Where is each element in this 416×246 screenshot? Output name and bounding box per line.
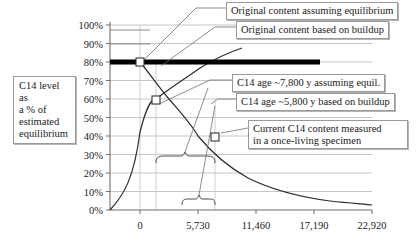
- chart-figure: 100% 90% 80% 70% 60% 50% 40% 30% 20% 10%…: [0, 0, 416, 246]
- y-tick-label-90: 90%: [84, 39, 104, 50]
- y-tick-label-0: 0%: [89, 205, 103, 216]
- axes: [110, 22, 372, 210]
- y-tick-label-80: 80%: [84, 57, 104, 68]
- y-tick-label-100: 100%: [79, 20, 104, 31]
- callout-c14-age-assuming-equilibrium-text: C14 age ~7,800 y assuming equil.: [237, 77, 380, 88]
- y-tick-label-30: 30%: [84, 150, 104, 161]
- y-axis-description-line-2: a % of: [19, 104, 70, 116]
- callout-current-c14-content-measured: Current C14 content measured in a once-l…: [248, 120, 408, 149]
- y-axis-description-line-3: estimated: [19, 116, 70, 128]
- brace-age-based-on-buildup: [182, 195, 215, 205]
- callout-original-content-based-on-buildup: Original content based on buildup: [236, 21, 389, 39]
- y-tick-label-40: 40%: [84, 131, 104, 142]
- marker-measured-current-content: [211, 133, 219, 141]
- y-tick-label-50: 50%: [84, 113, 104, 124]
- callout-c14-age-based-on-buildup-text: C14 age ~5,800 y based on buildup: [241, 96, 390, 107]
- callout-c14-age-assuming-equilibrium: C14 age ~7,800 y assuming equil.: [232, 74, 385, 92]
- callout-current-c14-content-line-2: in a once-living specimen: [253, 135, 403, 147]
- y-axis-description-line-1: C14 level as: [19, 80, 70, 104]
- x-tick-label-17190: 17,190: [300, 220, 329, 231]
- callout-current-c14-content-line-1: Current C14 content measured: [253, 123, 403, 135]
- callout-original-content-assuming-equilibrium-text: Original content assuming equilibrium: [231, 5, 393, 16]
- x-tick-label-22920: 22,920: [358, 220, 387, 231]
- y-tick-label-10: 10%: [84, 187, 104, 198]
- series-original-content-based-on-buildup: [110, 48, 242, 210]
- x-tick-label-5730: 5,730: [186, 220, 210, 231]
- callout-original-content-assuming-equilibrium: Original content assuming equilibrium: [226, 2, 398, 20]
- callout-c14-age-based-on-buildup: C14 age ~5,800 y based on buildup: [236, 93, 395, 111]
- y-axis-description-box: C14 level as a % of estimated equilibriu…: [13, 76, 76, 144]
- y-tick-label-60: 60%: [84, 94, 104, 105]
- callout-leader-lines: [110, 8, 248, 133]
- marker-buildup-decay-intersection: [152, 96, 160, 104]
- x-tick-label-11460: 11,460: [242, 220, 271, 231]
- y-tick-label-20: 20%: [84, 168, 104, 179]
- x-tick-label-0: 0: [137, 220, 142, 231]
- y-tick-label-70: 70%: [84, 76, 104, 87]
- marker-equilibrium-start: [136, 58, 144, 66]
- callout-original-content-based-on-buildup-text: Original content based on buildup: [241, 24, 384, 35]
- y-axis-description-line-4: equilibrium: [19, 128, 70, 140]
